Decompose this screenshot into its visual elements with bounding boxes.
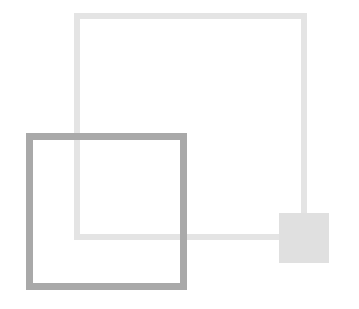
small-filled-square — [279, 213, 329, 263]
dark-outlined-square — [26, 133, 187, 290]
